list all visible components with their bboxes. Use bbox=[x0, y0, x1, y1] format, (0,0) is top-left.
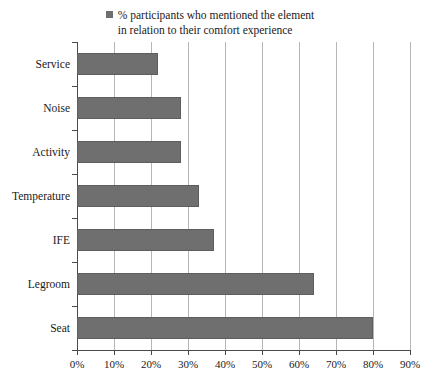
plot-area bbox=[77, 42, 410, 350]
bar-ife[interactable] bbox=[77, 229, 214, 251]
y-category-label-activity: Activity bbox=[0, 146, 70, 158]
x-tick-10 bbox=[114, 350, 115, 355]
x-tick-70 bbox=[336, 350, 337, 355]
bar-temperature[interactable] bbox=[77, 185, 199, 207]
x-tick-30 bbox=[188, 350, 189, 355]
x-tick-label-70: 70% bbox=[316, 358, 356, 370]
x-tick-40 bbox=[225, 350, 226, 355]
y-category-label-noise: Noise bbox=[0, 102, 70, 114]
x-tick-label-50: 50% bbox=[242, 358, 282, 370]
y-category-label-ife: IFE bbox=[0, 234, 70, 246]
y-category-label-seat: Seat bbox=[0, 322, 70, 334]
y-tick-3 bbox=[72, 174, 77, 175]
bar-legroom[interactable] bbox=[77, 273, 314, 295]
y-tick-5 bbox=[72, 262, 77, 263]
y-tick-1 bbox=[72, 86, 77, 87]
legend-entry: % participants who mentioned the element… bbox=[106, 8, 314, 37]
y-tick-6 bbox=[72, 306, 77, 307]
x-tick-20 bbox=[151, 350, 152, 355]
bar-band bbox=[77, 130, 410, 174]
bar-band bbox=[77, 86, 410, 130]
bar-band bbox=[77, 218, 410, 262]
gridline-90 bbox=[410, 42, 411, 350]
bar-band bbox=[77, 174, 410, 218]
y-category-label-service: Service bbox=[0, 58, 70, 70]
bar-noise[interactable] bbox=[77, 97, 181, 119]
legend-label-line2: in relation to their comfort experience bbox=[118, 23, 314, 38]
bar-service[interactable] bbox=[77, 53, 158, 75]
bar-activity[interactable] bbox=[77, 141, 181, 163]
y-tick-4 bbox=[72, 218, 77, 219]
bar-seat[interactable] bbox=[77, 317, 373, 339]
x-tick-60 bbox=[299, 350, 300, 355]
y-tick-2 bbox=[72, 130, 77, 131]
x-tick-label-30: 30% bbox=[168, 358, 208, 370]
x-tick-label-60: 60% bbox=[279, 358, 319, 370]
x-tick-label-80: 80% bbox=[353, 358, 393, 370]
y-category-label-temperature: Temperature bbox=[0, 190, 70, 202]
legend-label-line1: % participants who mentioned the element bbox=[118, 9, 314, 21]
y-tick-top bbox=[72, 42, 77, 43]
x-tick-label-90: 90% bbox=[390, 358, 425, 370]
x-tick-label-0: 0% bbox=[57, 358, 97, 370]
x-tick-50 bbox=[262, 350, 263, 355]
x-tick-90 bbox=[410, 350, 411, 355]
x-tick-0 bbox=[77, 350, 78, 355]
x-axis-line bbox=[77, 350, 411, 351]
bar-band bbox=[77, 306, 410, 350]
chart-legend: % participants who mentioned the element… bbox=[0, 8, 420, 38]
y-category-label-legroom: Legroom bbox=[0, 278, 70, 290]
x-tick-80 bbox=[373, 350, 374, 355]
bar-band bbox=[77, 42, 410, 86]
x-tick-label-20: 20% bbox=[131, 358, 171, 370]
bar-band bbox=[77, 262, 410, 306]
legend-swatch-icon bbox=[106, 11, 113, 18]
x-tick-label-10: 10% bbox=[94, 358, 134, 370]
x-tick-label-40: 40% bbox=[205, 358, 245, 370]
